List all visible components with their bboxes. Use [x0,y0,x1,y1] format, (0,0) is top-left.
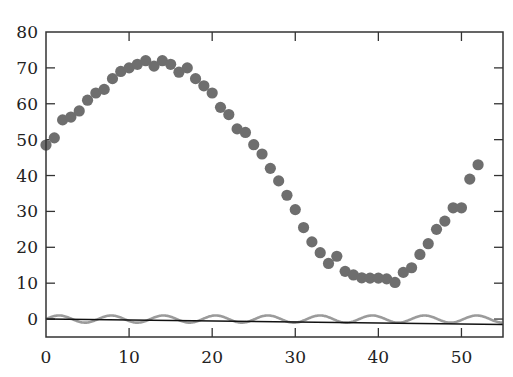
y-tick-label: 40 [16,166,38,186]
data-point [182,62,193,73]
scatter-chart: 01020304050607080 01020304050 [0,0,513,377]
data-point [265,163,276,174]
y-axis-labels: 01020304050607080 [16,22,38,329]
data-point [49,132,60,143]
x-tick-label: 20 [201,347,223,367]
data-point [223,109,234,120]
y-tick-label: 50 [16,130,38,150]
trend-line [46,319,503,324]
data-point [165,59,176,70]
data-point [406,262,417,273]
data-point [290,204,301,215]
data-point [99,84,110,95]
data-point [331,251,342,262]
data-point [273,175,284,186]
data-point [248,139,259,150]
data-point [298,222,309,233]
data-point [315,247,326,258]
data-point [207,87,218,98]
x-tick-label: 50 [451,347,473,367]
x-tick-label: 40 [368,347,390,367]
data-point [281,190,292,201]
y-tick-label: 0 [27,309,38,329]
y-tick-label: 30 [16,201,38,221]
x-tick-label: 10 [118,347,140,367]
data-point [464,174,475,185]
data-point [472,159,483,170]
data-point [240,127,251,138]
data-point [389,277,400,288]
data-point [456,202,467,213]
data-point [74,105,85,116]
trend-path [46,319,503,324]
data-point [431,224,442,235]
y-tick-label: 70 [16,58,38,78]
data-point [256,148,267,159]
data-point [306,236,317,247]
y-tick-label: 80 [16,22,38,42]
y-tick-label: 20 [16,237,38,257]
x-tick-label: 0 [41,347,52,367]
y-tick-label: 10 [16,273,38,293]
data-point [414,249,425,260]
x-tick-label: 30 [284,347,306,367]
data-point [423,238,434,249]
x-axis-labels: 01020304050 [41,347,473,367]
y-tick-label: 60 [16,94,38,114]
data-point [439,216,450,227]
data-points [40,55,483,288]
